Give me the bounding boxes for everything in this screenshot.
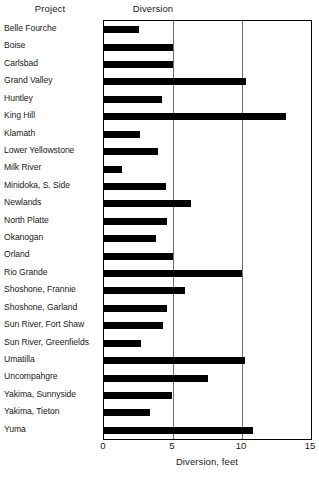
- project-label-column: Belle FourcheBoiseCarlsbadGrand ValleyHu…: [0, 20, 99, 438]
- category-label: Okanogan: [4, 229, 96, 247]
- category-label: Shoshone, Garland: [4, 299, 96, 317]
- bar: [104, 166, 122, 173]
- x-axis-label: Diversion, feet: [103, 456, 311, 467]
- bar: [104, 218, 167, 225]
- category-label: Shoshone, Frannie: [4, 281, 96, 299]
- bar: [104, 340, 141, 347]
- x-tick-label: 5: [169, 440, 174, 451]
- category-label: Lower Yellowstone: [4, 142, 96, 160]
- category-label: North Platte: [4, 212, 96, 230]
- x-tick-label: 10: [236, 440, 247, 451]
- category-label: Sun River, Fort Shaw: [4, 316, 96, 334]
- project-column-header: Project: [0, 3, 100, 14]
- bar: [104, 235, 156, 242]
- bar: [104, 375, 208, 382]
- category-label: Uncompahgre: [4, 368, 96, 386]
- category-label: Rio Grande: [4, 264, 96, 282]
- category-label: Yuma: [4, 421, 96, 439]
- category-label: Carlsbad: [4, 55, 96, 73]
- bar: [104, 427, 253, 434]
- bar: [104, 113, 286, 120]
- bar: [104, 78, 246, 85]
- category-label: Umatilla: [4, 351, 96, 369]
- category-label: Milk River: [4, 159, 96, 177]
- category-label: King Hill: [4, 107, 96, 125]
- bar: [104, 131, 140, 138]
- bar: [104, 392, 172, 399]
- category-label: Orland: [4, 246, 96, 264]
- chart-header-row: Project Diversion: [0, 3, 319, 19]
- bar: [104, 409, 150, 416]
- bar: [104, 26, 139, 33]
- bar: [104, 270, 242, 277]
- bar: [104, 357, 245, 364]
- category-label: Yakima, Tieton: [4, 403, 96, 421]
- x-tick-label: 15: [305, 440, 316, 451]
- bar: [104, 253, 173, 260]
- diversion-bar-chart-figure: Project Diversion Belle FourcheBoiseCarl…: [0, 0, 319, 484]
- bar: [104, 96, 162, 103]
- bar: [104, 44, 173, 51]
- category-label: Boise: [4, 37, 96, 55]
- bar: [104, 148, 158, 155]
- category-label: Yakima, Sunnyside: [4, 386, 96, 404]
- plot-area: [103, 20, 312, 440]
- bar: [104, 287, 185, 294]
- plot-inner: [104, 21, 311, 439]
- bar: [104, 200, 191, 207]
- category-label: Belle Fourche: [4, 20, 96, 38]
- bar: [104, 322, 163, 329]
- diversion-column-header: Diversion: [103, 3, 203, 14]
- category-label: Minidoka, S. Side: [4, 177, 96, 195]
- bar: [104, 183, 166, 190]
- category-label: Newlands: [4, 194, 96, 212]
- x-tick-label: 0: [100, 440, 105, 451]
- bar: [104, 305, 167, 312]
- category-label: Grand Valley: [4, 72, 96, 90]
- category-label: Huntley: [4, 90, 96, 108]
- category-label: Klamath: [4, 125, 96, 143]
- category-label: Sun River, Greenfields: [4, 334, 96, 352]
- bar: [104, 61, 173, 68]
